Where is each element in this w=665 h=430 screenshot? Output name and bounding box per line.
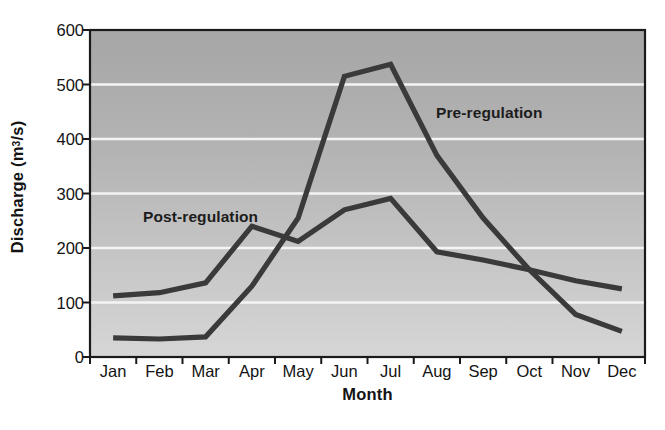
x-axis-tick-label: Feb xyxy=(136,362,182,386)
x-axis-tick-labels: JanFebMarAprMayJunJulAugSepOctNovDec xyxy=(90,362,645,386)
x-axis-tick-label: Aug xyxy=(414,362,460,386)
x-axis-tick-label: Jan xyxy=(90,362,136,386)
series-label-post-regulation: Post-regulation xyxy=(143,208,258,226)
x-axis-tick-label: Jul xyxy=(368,362,414,386)
x-axis-tick-label: Nov xyxy=(553,362,599,386)
x-axis-tick-label: Sep xyxy=(460,362,506,386)
x-axis-tick-label: Oct xyxy=(506,362,552,386)
x-axis-tick-label: May xyxy=(275,362,321,386)
x-axis-tick-label: Mar xyxy=(183,362,229,386)
x-axis-tick-label: Dec xyxy=(599,362,645,386)
series-label-pre-regulation: Pre-regulation xyxy=(436,104,542,122)
x-axis-title: Month xyxy=(90,385,645,404)
x-axis-tick-label: Apr xyxy=(229,362,275,386)
chart-figure: Discharge (m3/s) 0100200300400500600 Pos… xyxy=(0,0,665,430)
x-axis-tick-label: Jun xyxy=(321,362,367,386)
